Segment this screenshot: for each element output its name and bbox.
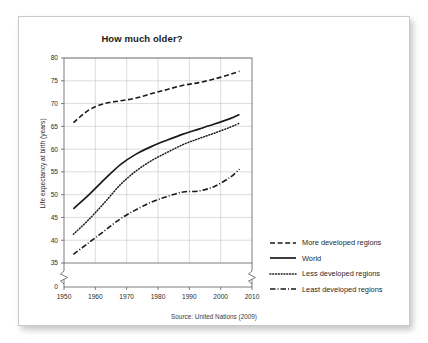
svg-text:70: 70 xyxy=(51,100,59,107)
svg-text:1970: 1970 xyxy=(119,293,134,300)
x-tick-labels: 1950196019701980199020002010 xyxy=(57,293,260,300)
svg-text:2000: 2000 xyxy=(213,293,228,300)
data-series-group xyxy=(73,71,239,254)
chart-legend: More developed regionsWorldLess develope… xyxy=(269,235,419,297)
legend-key-dotted xyxy=(269,269,297,279)
svg-text:1950: 1950 xyxy=(57,293,72,300)
x-tick-marks xyxy=(64,287,252,290)
svg-text:35: 35 xyxy=(51,259,59,266)
svg-text:1960: 1960 xyxy=(88,293,103,300)
legend-key-dashdot xyxy=(269,284,297,294)
legend-key-solid xyxy=(269,253,297,263)
svg-text:80: 80 xyxy=(51,54,59,61)
legend-label: Less developed regions xyxy=(302,269,380,278)
page-root: How much older? Life expectancy at birth… xyxy=(0,0,428,343)
svg-text:75: 75 xyxy=(51,77,59,84)
svg-text:1980: 1980 xyxy=(151,293,166,300)
chart-card: How much older? Life expectancy at birth… xyxy=(18,16,410,326)
legend-item: More developed regions xyxy=(269,235,419,251)
legend-item: Least developed regions xyxy=(269,282,419,298)
source-note: Source: United Nations (2009) xyxy=(89,313,339,320)
legend-item: Less developed regions xyxy=(269,266,419,282)
svg-text:50: 50 xyxy=(51,191,59,198)
legend-label: Least developed regions xyxy=(302,285,383,294)
svg-text:1990: 1990 xyxy=(182,293,197,300)
svg-text:45: 45 xyxy=(51,214,59,221)
legend-key-dashed xyxy=(269,238,297,248)
svg-text:40: 40 xyxy=(51,237,59,244)
series-line xyxy=(73,71,239,122)
svg-text:65: 65 xyxy=(51,123,59,130)
legend-label: World xyxy=(302,254,321,263)
svg-text:55: 55 xyxy=(51,168,59,175)
y-tick-labels: 354045505560657075800 xyxy=(51,54,59,290)
svg-text:2010: 2010 xyxy=(245,293,260,300)
series-line xyxy=(73,169,239,254)
gridlines xyxy=(64,58,252,263)
svg-text:0: 0 xyxy=(54,283,58,290)
svg-text:60: 60 xyxy=(51,146,59,153)
legend-label: More developed regions xyxy=(302,238,381,247)
legend-item: World xyxy=(269,251,419,267)
axis-break-marker xyxy=(61,271,256,284)
